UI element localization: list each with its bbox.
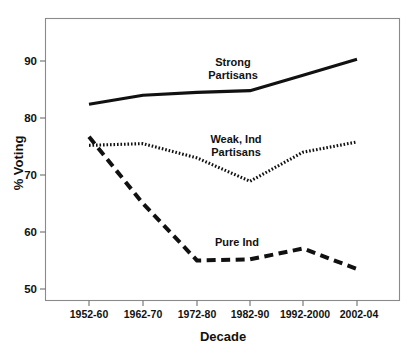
x-tick-label-5: 1992-2000 xyxy=(280,308,330,320)
y-axis-ticks xyxy=(40,61,46,289)
annotation-weak-ind-line1: Weak, Ind xyxy=(210,133,261,145)
y-tick-label-90: 90 xyxy=(24,55,37,67)
y-axis-tick-labels: 90 80 70 60 50 xyxy=(24,55,37,295)
x-tick-label-3: 1972-80 xyxy=(178,308,217,320)
annotation-strong-partisans-line1: Strong xyxy=(215,56,250,68)
x-axis-tick-labels: 1952-60 1962-70 1972-80 1982-90 1992-200… xyxy=(70,308,379,320)
annotation-weak-ind-line2: Partisans xyxy=(211,146,261,158)
chart-container: 90 80 70 60 50 1952-60 1962-70 1972-80 1… xyxy=(0,0,418,353)
x-tick-label-1: 1952-60 xyxy=(70,308,109,320)
x-tick-label-6: 2002-04 xyxy=(340,308,379,320)
y-axis-title: % Voting xyxy=(11,136,26,191)
annotation-strong-partisans-line2: Partisans xyxy=(208,69,258,81)
y-tick-label-60: 60 xyxy=(24,226,37,238)
x-axis-ticks xyxy=(89,301,357,307)
y-tick-label-80: 80 xyxy=(24,112,37,124)
annotation-pure-ind: Pure Ind xyxy=(215,236,259,248)
y-tick-label-70: 70 xyxy=(24,169,37,181)
x-tick-label-4: 1982-90 xyxy=(231,308,270,320)
x-tick-label-2: 1962-70 xyxy=(124,308,163,320)
y-tick-label-50: 50 xyxy=(24,283,37,295)
x-axis-title: Decade xyxy=(200,329,246,344)
line-chart: 90 80 70 60 50 1952-60 1962-70 1972-80 1… xyxy=(0,0,418,353)
